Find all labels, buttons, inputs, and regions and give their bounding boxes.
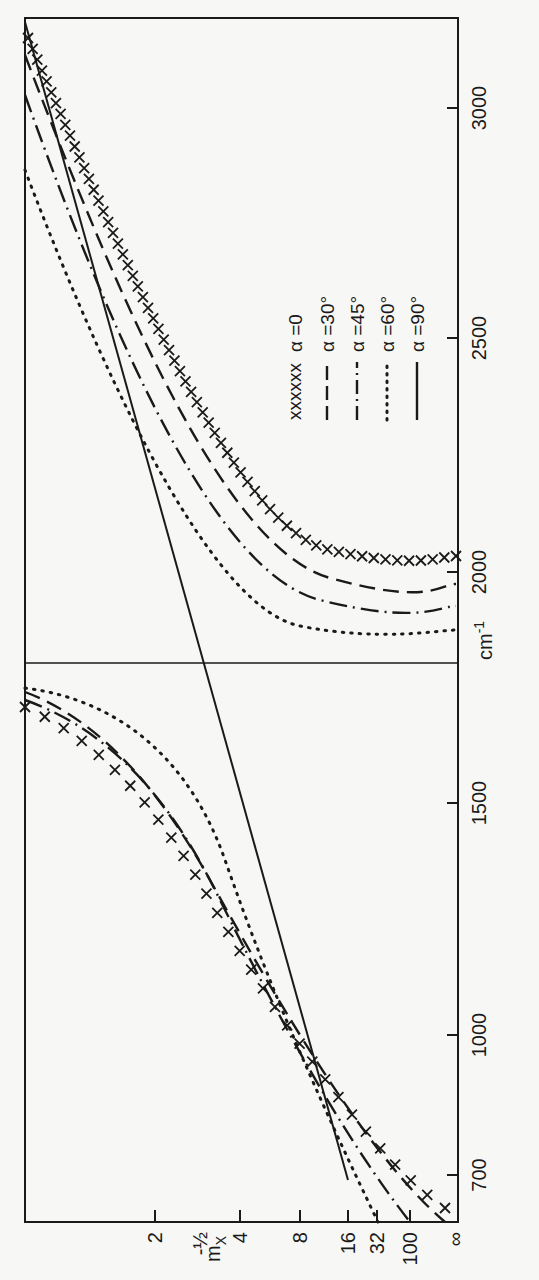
cross-marker	[369, 553, 379, 563]
cross-marker	[258, 983, 268, 993]
cross-marker	[404, 556, 414, 566]
cross-marker	[113, 239, 123, 249]
cross-marker	[282, 521, 292, 531]
frequency-tick-label: 2500	[468, 316, 490, 361]
curve-alpha-45-upper	[25, 95, 456, 613]
cross-marker	[322, 544, 332, 554]
cross-marker	[198, 407, 208, 417]
cross-marker	[381, 554, 391, 564]
legend-item: α =90°	[407, 296, 428, 420]
cross-marker	[229, 458, 239, 468]
cross-marker	[56, 109, 66, 119]
cross-marker	[406, 1175, 416, 1185]
legend-label: α =60°	[377, 296, 398, 352]
legend-label: α =90°	[407, 296, 428, 352]
frequency-tick-label: 1000	[468, 1013, 490, 1058]
cross-marker	[347, 1110, 357, 1120]
cross-marker	[320, 1074, 330, 1084]
cross-marker	[103, 217, 113, 227]
frequency-unit-label: cm-1	[471, 621, 496, 660]
cross-marker	[236, 467, 246, 477]
mass-tick-label: 2	[144, 1232, 166, 1243]
cross-marker	[201, 889, 211, 899]
cross-marker	[243, 477, 253, 487]
cross-marker	[110, 765, 120, 775]
cross-marker	[143, 303, 153, 313]
cross-marker	[108, 228, 118, 238]
cross-marker	[416, 555, 426, 565]
cross-marker	[40, 712, 50, 722]
cross-marker	[301, 535, 311, 545]
cross-marker	[93, 196, 103, 206]
mass-tick-label: ∞	[444, 1232, 466, 1246]
cross-marker	[153, 324, 163, 334]
cross-marker	[440, 1203, 450, 1213]
frequency-tick-label: 1500	[468, 781, 490, 826]
cross-marker	[46, 87, 56, 97]
cross-marker	[192, 397, 202, 407]
figure-canvas: 30002500200015001000700 2481632100∞-½ cm…	[0, 0, 539, 1280]
curve-alpha-60-upper	[25, 170, 456, 634]
cross-marker	[94, 750, 104, 760]
cross-marker	[180, 376, 190, 386]
cross-markers	[20, 33, 461, 1213]
cross-marker	[84, 174, 94, 184]
cross-marker	[212, 908, 222, 918]
legend-item: α =60°	[377, 296, 398, 420]
frequency-tick-label: 3000	[468, 86, 490, 131]
legend-label: α =45°	[347, 296, 368, 352]
cross-marker	[133, 281, 143, 291]
mass-axis: 2481632100∞-½	[144, 1210, 466, 1265]
cross-marker	[159, 335, 169, 345]
legend-label: α =30°	[317, 296, 338, 352]
cross-marker	[357, 551, 367, 561]
cross-marker	[216, 438, 226, 448]
cross-marker	[123, 260, 133, 270]
cross-marker	[175, 366, 185, 376]
cross-marker	[60, 120, 70, 130]
cross-marker	[291, 528, 301, 538]
cross-marker	[361, 1127, 371, 1137]
cross-marker	[179, 851, 189, 861]
legend-item: α =30°	[317, 296, 338, 420]
cross-marker	[65, 131, 75, 141]
frequency-tick-label: 700	[468, 1158, 490, 1191]
cross-marker	[250, 486, 260, 496]
cross-marker	[59, 723, 69, 733]
cross-marker	[128, 271, 138, 281]
curve-alpha-45-lower	[25, 700, 410, 1222]
cross-marker	[345, 549, 355, 559]
cross-marker	[153, 815, 163, 825]
mass-tick-label: 4	[229, 1232, 251, 1243]
cross-marker	[51, 98, 61, 108]
curve-alpha-60-lower	[25, 688, 378, 1222]
cross-marker	[334, 547, 344, 557]
cross-marker	[164, 345, 174, 355]
cross-marker	[70, 141, 80, 151]
cross-marker	[428, 554, 438, 564]
cross-marker	[77, 736, 87, 746]
legend-label: α =0	[285, 314, 306, 352]
cross-marker	[79, 163, 89, 173]
cross-marker	[148, 313, 158, 323]
cross-marker	[74, 152, 84, 162]
curves	[20, 22, 461, 1222]
cross-marker	[89, 185, 99, 195]
curve-alpha-90	[25, 22, 348, 1180]
mass-tick-label: 16	[337, 1232, 359, 1254]
mass-tick-label: 100	[399, 1232, 421, 1265]
cross-marker	[451, 551, 461, 561]
cross-marker	[118, 249, 128, 259]
cross-marker	[204, 418, 214, 428]
cross-marker	[169, 356, 179, 366]
cross-marker	[166, 833, 176, 843]
mass-tick-label: 32	[366, 1232, 388, 1254]
cross-marker	[42, 76, 52, 86]
cross-marker	[222, 448, 232, 458]
legend-item: α =45°	[347, 296, 368, 420]
cross-marker	[140, 797, 150, 807]
cross-marker	[138, 292, 148, 302]
cross-marker	[190, 870, 200, 880]
cross-marker	[186, 387, 196, 397]
legend: xxxxxxα =0α =30°α =45°α =60°α =90°	[284, 296, 428, 420]
